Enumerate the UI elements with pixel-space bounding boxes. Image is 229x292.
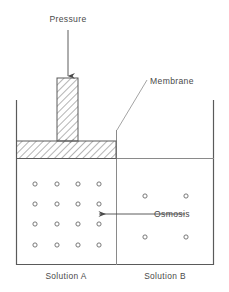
particle (55, 202, 59, 206)
particle (55, 182, 59, 186)
particle (55, 222, 59, 226)
membrane-label: Membrane (150, 76, 194, 86)
piston-block (17, 141, 117, 159)
osmosis-label: Osmosis (154, 209, 190, 219)
particle (33, 222, 37, 226)
particle (97, 182, 101, 186)
osmosis-annotation: Osmosis (99, 209, 190, 219)
particle (97, 222, 101, 226)
particle (33, 182, 37, 186)
osmosis-diagram: Pressure Membrane (0, 0, 229, 292)
diagram-canvas: Pressure Membrane (0, 0, 229, 292)
particle (76, 182, 80, 186)
piston-assembly (17, 78, 117, 159)
piston-stem-joint-cover (58, 139, 77, 143)
membrane-leader-line (117, 80, 147, 130)
particle (76, 222, 80, 226)
particle (33, 243, 37, 247)
piston-stem (57, 78, 78, 141)
particle (143, 194, 147, 198)
membrane-annotation: Membrane (117, 76, 194, 130)
particle (184, 235, 188, 239)
particle (97, 243, 101, 247)
particles-solution-a (33, 182, 101, 247)
particle (33, 202, 37, 206)
pressure-annotation: Pressure (49, 14, 86, 76)
particle (143, 235, 147, 239)
particle (184, 194, 188, 198)
particle (76, 202, 80, 206)
particle (76, 243, 80, 247)
solution-b-caption: Solution B (144, 271, 186, 281)
pressure-label: Pressure (49, 14, 86, 24)
container-vessel (16, 100, 214, 265)
particle (55, 243, 59, 247)
particle (97, 202, 101, 206)
compartment-captions: Solution A Solution B (45, 271, 186, 281)
solution-a-caption: Solution A (45, 271, 86, 281)
